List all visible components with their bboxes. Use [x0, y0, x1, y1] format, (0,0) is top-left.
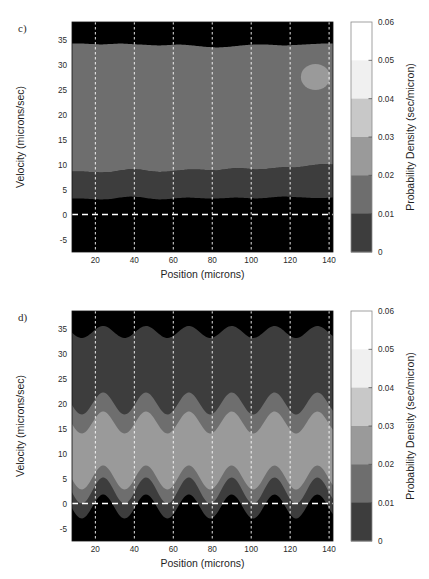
colorbar-tick-label: 0: [378, 537, 383, 546]
y-tick-label: 5: [62, 475, 67, 484]
y-axis-title: Velocity (microns/sec): [14, 375, 26, 477]
colorbar-swatch-0.03-0.04: [351, 99, 372, 138]
x-tick-label: 20: [91, 256, 101, 265]
colorbar: 0.060.050.040.030.020.010Probability Den…: [351, 307, 416, 546]
colorbar-swatch-0.01-0.02: [351, 464, 372, 503]
panel-d: d) 20406080100120140-505101520253035Posi…: [0, 289, 429, 579]
y-tick-label: 0: [62, 211, 67, 220]
y-tick-label: 30: [58, 61, 68, 70]
x-tick-label: 40: [130, 545, 140, 554]
x-tick-label: 80: [208, 545, 218, 554]
colorbar-tick-label: 0.02: [378, 171, 394, 180]
y-tick-label: 30: [58, 350, 68, 359]
y-tick-label: 15: [58, 425, 68, 434]
plot-area: [72, 22, 333, 252]
colorbar-swatch-0.03-0.04: [351, 388, 372, 427]
y-tick-label: 20: [58, 111, 68, 120]
colorbar-swatch-0.01-0.02: [351, 175, 372, 214]
x-tick-label: 100: [244, 545, 258, 554]
colorbar-tick-label: 0.06: [378, 307, 394, 316]
y-axis-title: Velocity (microns/sec): [14, 86, 26, 188]
y-tick-label: 35: [58, 36, 68, 45]
colorbar-tick-label: 0.01: [378, 210, 394, 219]
colorbar-swatch-0-0.01: [351, 214, 372, 253]
contour-plot-d: 20406080100120140-505101520253035Positio…: [0, 289, 429, 579]
y-tick-label: -5: [60, 525, 68, 534]
y-tick-label: 25: [58, 86, 68, 95]
x-tick-label: 60: [169, 256, 179, 265]
colorbar-title: Probability Density (sec/micron): [404, 352, 416, 500]
colorbar-title: Probability Density (sec/micron): [404, 63, 416, 211]
y-tick-label: 15: [58, 136, 68, 145]
colorbar-swatch-0.02-0.03: [351, 426, 372, 465]
y-tick-label: 10: [58, 450, 68, 459]
y-tick-label: 20: [58, 400, 68, 409]
panel-c: c) 20406080100120140-505101520253035Posi…: [0, 0, 429, 290]
colorbar-swatch-0.04-0.05: [351, 349, 372, 388]
contour-band-0.02-0.03: [72, 44, 333, 173]
x-tick-label: 60: [169, 545, 179, 554]
y-tick-label: 0: [62, 500, 67, 509]
x-tick-label: 20: [91, 545, 101, 554]
colorbar-tick-label: 0.05: [378, 345, 394, 354]
colorbar-tick-label: 0.01: [378, 499, 394, 508]
colorbar-tick-label: 0.03: [378, 133, 394, 142]
x-tick-label: 140: [322, 256, 336, 265]
contour-inset-blob: [301, 64, 330, 90]
x-tick-label: 120: [283, 256, 297, 265]
colorbar-tick-label: 0.06: [378, 18, 394, 27]
y-tick-label: -5: [60, 236, 68, 245]
colorbar-tick-label: 0.04: [378, 95, 394, 104]
colorbar-swatch-0.02-0.03: [351, 137, 372, 176]
colorbar-swatch-0.05-0.06: [351, 311, 372, 350]
colorbar-tick-label: 0.05: [378, 56, 394, 65]
y-tick-label: 10: [58, 161, 68, 170]
contour-plot-c: 20406080100120140-505101520253035Positio…: [0, 0, 429, 290]
colorbar-swatch-0.04-0.05: [351, 60, 372, 99]
colorbar-swatch-0.05-0.06: [351, 22, 372, 61]
colorbar-tick-label: 0: [378, 248, 383, 257]
y-tick-label: 25: [58, 375, 68, 384]
y-tick-label: 5: [62, 186, 67, 195]
y-tick-label: 35: [58, 325, 68, 334]
colorbar-tick-label: 0.03: [378, 422, 394, 431]
x-tick-label: 140: [322, 545, 336, 554]
x-axis-title: Position (microns): [160, 557, 244, 569]
colorbar-swatch-0-0.01: [351, 503, 372, 542]
x-tick-label: 120: [283, 545, 297, 554]
colorbar-tick-label: 0.04: [378, 384, 394, 393]
colorbar-tick-label: 0.02: [378, 460, 394, 469]
x-tick-label: 40: [130, 256, 140, 265]
colorbar: 0.060.050.040.030.020.010Probability Den…: [351, 18, 416, 257]
plot-area: [72, 311, 333, 541]
x-axis-title: Position (microns): [160, 268, 244, 280]
x-tick-label: 80: [208, 256, 218, 265]
x-tick-label: 100: [244, 256, 258, 265]
